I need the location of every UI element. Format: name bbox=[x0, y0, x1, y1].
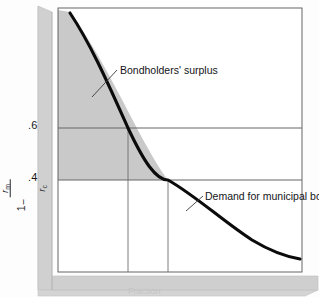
y-axis-numerator-subscript: m bbox=[4, 184, 11, 190]
y-axis-label-one: 1 bbox=[16, 205, 28, 211]
annotation-bondholders-surplus: Bondholders' surplus bbox=[120, 64, 218, 76]
y-axis-label-minus: − bbox=[17, 199, 29, 205]
y-axis-denominator-symbol: r bbox=[36, 189, 47, 192]
y-axis-label-numerator: rm bbox=[0, 180, 11, 198]
caption-partial-text: Fraction bbox=[128, 288, 161, 297]
y-axis-label-fraction: rm rc bbox=[0, 180, 72, 198]
demand-curve-chart bbox=[0, 0, 319, 297]
annotation-demand-for-municipal-bonds: Demand for municipal bonds bbox=[205, 190, 309, 202]
y-axis-label: 1− rm rc bbox=[0, 170, 84, 232]
y-axis-denominator-subscript: c bbox=[41, 185, 48, 189]
y-axis-label-denominator: rc bbox=[36, 180, 47, 198]
figure-container: .6 .4 1− rm rc Bondholders' surplus Dema… bbox=[0, 0, 319, 297]
y-tick-label-06: .6 bbox=[28, 119, 38, 132]
caption-strip: Fraction bbox=[0, 288, 319, 297]
